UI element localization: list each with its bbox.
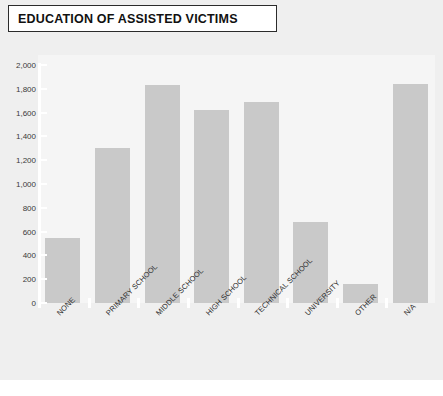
y-axis-tick-mark: [41, 135, 47, 137]
y-axis-tick-mark: [41, 159, 47, 161]
y-axis-tick-mark: [41, 64, 47, 66]
y-axis-tick-mark: [41, 88, 47, 90]
x-axis-tick-mark: [137, 298, 140, 308]
x-axis-tick-label: PRIMARY SCHOOL: [104, 262, 159, 317]
y-axis-tick-mark: [41, 302, 47, 304]
x-axis-tick-labels: NONEPRIMARY SCHOOLMIDDLE SCHOOLHIGH SCHO…: [0, 0, 443, 396]
x-axis-tick-mark: [336, 298, 339, 308]
x-axis-tick-mark: [237, 298, 240, 308]
x-axis-tick-label: HIGH SCHOOL: [204, 273, 248, 317]
x-axis-tick-mark: [286, 298, 289, 308]
y-axis-tick-mark: [41, 207, 47, 209]
x-axis-tick-label: NONE: [55, 295, 77, 317]
y-axis-tick-mark: [41, 254, 47, 256]
y-axis-tick-mark: [41, 278, 47, 280]
chart-panel: EDUCATION OF ASSISTED VICTIMS 0200400600…: [0, 0, 443, 380]
x-axis-tick-mark: [88, 298, 91, 308]
x-axis-tick-label: OTHER: [353, 292, 378, 317]
x-axis-tick-label: MIDDLE SCHOOL: [154, 266, 205, 317]
y-axis-tick-mark: [41, 231, 47, 233]
x-axis-tick-label: N/A: [402, 302, 417, 317]
y-axis-tick-mark: [41, 112, 47, 114]
y-axis-tick-mark: [41, 183, 47, 185]
x-axis-tick-mark: [385, 298, 388, 308]
x-axis-tick-mark: [187, 298, 190, 308]
x-axis-tick-mark: [38, 298, 41, 308]
